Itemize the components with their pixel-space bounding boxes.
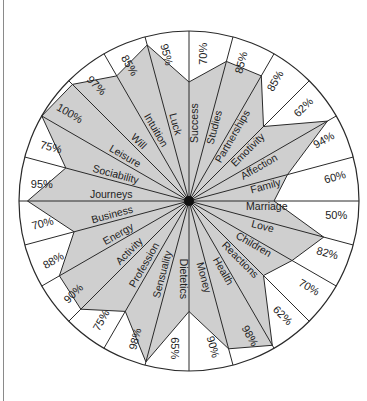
value-label-partnerships: 85% [264,68,286,93]
category-label-journeys: Journeys [90,188,133,200]
value-label-dietetics: 65% [169,337,181,359]
value-label-success: 70% [197,43,209,65]
value-label-journeys: 95% [31,178,53,190]
value-label-emotivity: 62% [291,95,315,119]
value-label-reactions: 62% [271,303,295,327]
value-label-family: 60% [323,168,348,185]
radial-star-chart: SuccessStudiesPartnershipsEmotivityAffec… [0,0,367,401]
category-label-dietetics: Dietetics [178,259,190,299]
value-label-business: 70% [30,214,55,231]
value-label-children: 70% [297,276,322,298]
value-label-profession: 75% [90,307,112,332]
category-label-success: Success [188,103,200,143]
category-label-marriage: Marriage [246,200,288,212]
value-label-marriage: 50% [325,209,347,221]
value-label-love: 82% [315,244,340,261]
center-hub [184,196,194,206]
